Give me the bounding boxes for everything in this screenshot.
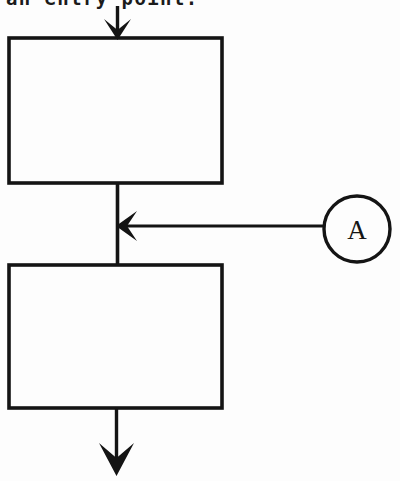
process-box-1 — [9, 38, 222, 183]
offpage-connector-label: A — [347, 215, 367, 245]
flowchart-diagram: A — [0, 0, 400, 481]
flowchart-canvas: an entry point. A — [0, 0, 400, 481]
exit-arrow — [99, 408, 134, 476]
connector-arrow — [116, 211, 324, 241]
process-box-2 — [9, 265, 222, 408]
entry-arrow — [104, 6, 131, 40]
offpage-connector-a: A — [324, 196, 390, 262]
